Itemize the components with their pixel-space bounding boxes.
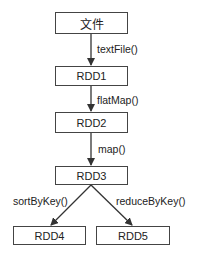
node-label: RDD3 bbox=[77, 170, 107, 182]
node-rdd3: RDD3 bbox=[55, 166, 128, 185]
node-label: RDD1 bbox=[77, 70, 107, 82]
node-rdd5: RDD5 bbox=[96, 226, 170, 245]
node-file: 文件 bbox=[55, 12, 128, 34]
edge-label-sortbykey: sortByKey() bbox=[13, 195, 68, 207]
node-label: RDD5 bbox=[118, 230, 148, 242]
edge-label-flatmap: flatMap() bbox=[97, 94, 138, 106]
node-rdd1: RDD1 bbox=[55, 66, 128, 86]
node-rdd2: RDD2 bbox=[55, 112, 128, 133]
edge-label-reducebykey: reduceByKey() bbox=[116, 195, 185, 207]
edge-label-textfile: textFile() bbox=[97, 43, 138, 55]
node-label: RDD2 bbox=[77, 117, 107, 129]
node-label: 文件 bbox=[80, 15, 104, 32]
node-rdd4: RDD4 bbox=[13, 226, 86, 245]
edge-label-map: map() bbox=[98, 143, 125, 155]
node-label: RDD4 bbox=[35, 230, 65, 242]
